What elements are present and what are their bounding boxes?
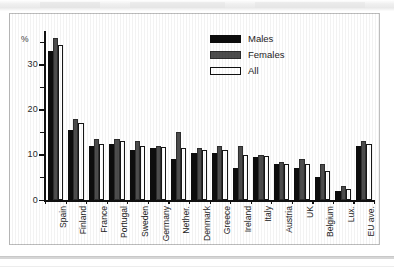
bar-all (161, 147, 166, 200)
legend-label: All (248, 66, 259, 76)
plot-area: % 0102030 SpainFinlandFrancePortugalSwed… (10, 14, 379, 244)
bar-group (333, 31, 354, 200)
bar-all (243, 155, 248, 200)
page-divider-rule-secondary (0, 266, 394, 267)
bar-group (107, 31, 128, 200)
x-tick-label: France (100, 206, 109, 262)
bar-all (202, 150, 207, 200)
x-axis-tick-labels: SpainFinlandFrancePortugalSwedenGermanyN… (45, 206, 374, 258)
bar-all (346, 189, 351, 200)
legend-entry: Females (210, 48, 320, 61)
x-tick (292, 200, 293, 204)
bar-all (140, 146, 145, 200)
y-tick-label: 20 (14, 105, 38, 114)
bar-group (148, 31, 169, 200)
chart-legend: MalesFemalesAll (210, 32, 320, 80)
y-axis-tick-labels: 0102030 (10, 14, 38, 244)
y-tick-label: 30 (14, 60, 38, 69)
x-tick (271, 200, 272, 204)
bar-all (305, 164, 310, 200)
page-divider-rule (0, 256, 394, 259)
x-tick-label: Italy (264, 206, 273, 262)
bar-all (120, 141, 125, 200)
bar-all (78, 123, 83, 200)
legend-entry: Males (210, 32, 320, 45)
bar-group (168, 31, 189, 200)
bar-all (264, 156, 269, 200)
bar-group (66, 31, 87, 200)
x-tick (66, 200, 67, 204)
x-tick (127, 200, 128, 204)
x-tick (86, 200, 87, 204)
bar-all (222, 150, 227, 200)
x-tick (333, 200, 334, 204)
x-tick-label: Portugal (120, 206, 129, 262)
x-tick-label: Belgium (326, 206, 335, 262)
x-tick (353, 200, 354, 204)
x-tick-label: Ireland (244, 206, 253, 262)
x-tick-label: Lux. (347, 206, 356, 262)
x-tick (374, 200, 375, 204)
x-tick-label: EU ave. (367, 206, 376, 262)
x-tick (168, 200, 169, 204)
bar-group (86, 31, 107, 200)
x-tick (312, 200, 313, 204)
x-tick-label: Nether. (182, 206, 191, 262)
x-tick-label: Finland (79, 206, 88, 262)
bar-all (284, 164, 289, 200)
chart-figure-frame: % 0102030 SpainFinlandFrancePortugalSwed… (9, 13, 380, 245)
x-tick (148, 200, 149, 204)
x-tick (251, 200, 252, 204)
bar-all (99, 144, 104, 200)
x-tick-label: UK (306, 206, 315, 262)
bar-group (189, 31, 210, 200)
bar-group (127, 31, 148, 200)
y-tick-label: 10 (14, 150, 38, 159)
x-tick (210, 200, 211, 204)
x-tick-label: Austria (285, 206, 294, 262)
bar-all (58, 45, 63, 200)
x-tick-label: Denmark (203, 206, 212, 262)
scan-artifact-band-top (0, 0, 394, 11)
bar-group (45, 31, 66, 200)
x-tick-label: Greece (223, 206, 232, 262)
x-axis-ticks (45, 200, 374, 204)
x-tick (230, 200, 231, 204)
legend-label: Males (248, 34, 273, 44)
x-tick-label: Sweden (141, 206, 150, 262)
x-tick-label: Germany (162, 206, 171, 262)
x-tick (107, 200, 108, 204)
y-tick-label: 0 (14, 196, 38, 205)
bar-all (366, 144, 371, 200)
x-tick (45, 200, 46, 204)
bar-all (325, 171, 330, 200)
bar-all (181, 148, 186, 200)
x-tick-label: Spain (59, 206, 68, 262)
solid-gray-swatch (210, 51, 241, 59)
bar-group (353, 31, 374, 200)
legend-entry: All (210, 64, 320, 77)
solid-black-swatch (210, 35, 241, 43)
x-tick (189, 200, 190, 204)
legend-label: Females (248, 50, 284, 60)
outline-white-swatch (210, 67, 241, 75)
